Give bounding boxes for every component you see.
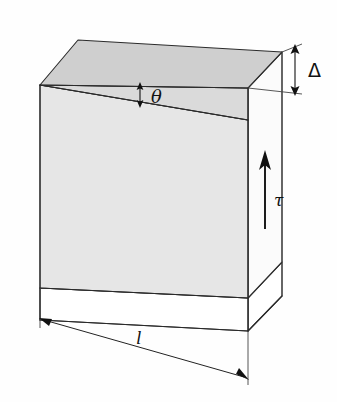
theta-label: θ bbox=[151, 86, 162, 107]
length-arrowhead-left bbox=[39, 318, 52, 326]
figure-root: Δ θ τ l bbox=[0, 0, 337, 402]
top-face bbox=[40, 40, 282, 88]
length-arrowhead-right bbox=[236, 368, 249, 380]
length-label: l bbox=[136, 327, 141, 348]
tau-label: τ bbox=[274, 190, 284, 210]
shear-block-diagram: Δ θ τ l bbox=[0, 0, 337, 402]
front-face bbox=[40, 85, 248, 298]
block-body-group bbox=[40, 40, 282, 331]
delta-label: Δ bbox=[308, 59, 321, 81]
